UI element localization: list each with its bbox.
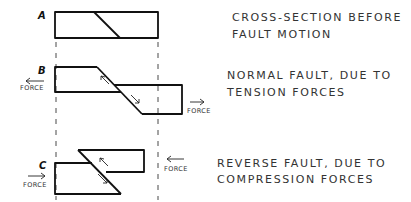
panel-b-letter: B <box>38 65 46 76</box>
panel-b-slip-arrow-down <box>131 95 139 103</box>
panel-c-letter: C <box>39 160 47 171</box>
panel-a-letter: A <box>37 10 46 21</box>
panel-b-fault-line <box>97 67 142 114</box>
fault-diagram: A CROSS-SECTION BEFORE FAULT MOTION B FO… <box>0 0 411 202</box>
panel-b-right-block <box>114 85 182 114</box>
panel-b-force-right: FORCE <box>187 99 211 115</box>
panel-c-lower-block <box>55 163 121 194</box>
panel-c-caption-line1: REVERSE FAULT, DUE TO <box>217 157 386 170</box>
panel-b-left-block <box>55 67 121 92</box>
panel-b: B FORCE FORCE NORMAL FAULT, DUE TO TE <box>20 65 392 115</box>
svg-text:FORCE: FORCE <box>20 84 44 92</box>
panel-a-fault-line <box>94 12 120 38</box>
panel-c-caption-line2: COMPRESSION FORCES <box>217 173 374 186</box>
panel-c: C FORCE FORCE REVERSE FAULT, DUE TO <box>23 150 386 194</box>
panel-a-caption-line1: CROSS-SECTION BEFORE <box>232 11 402 24</box>
panel-c-force-right: FORCE <box>164 156 188 173</box>
svg-text:FORCE: FORCE <box>164 165 188 173</box>
panel-b-caption-line2: TENSION FORCES <box>226 86 346 99</box>
panel-a-caption-line2: FAULT MOTION <box>232 28 332 41</box>
panel-c-force-left: FORCE <box>23 173 47 189</box>
panel-a: A CROSS-SECTION BEFORE FAULT MOTION <box>37 10 402 41</box>
panel-b-force-left: FORCE <box>20 78 44 92</box>
panel-c-slip-arrow-up <box>100 158 108 166</box>
panel-b-caption-line1: NORMAL FAULT, DUE TO <box>227 69 392 82</box>
svg-text:FORCE: FORCE <box>23 181 47 189</box>
svg-text:FORCE: FORCE <box>187 107 211 115</box>
